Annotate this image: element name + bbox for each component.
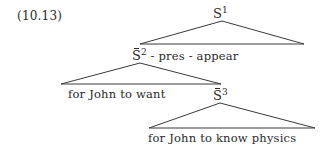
node-s1-index: 1 bbox=[222, 5, 228, 15]
terminal-for-john-to-know-physics: for John to know physics bbox=[148, 131, 296, 145]
node-s2-suffix: - pres - appear bbox=[147, 49, 239, 63]
node-s3-index: 3 bbox=[222, 87, 228, 97]
terminal-for-john-to-want: for John to want bbox=[68, 87, 165, 101]
node-s3: S3 bbox=[213, 89, 228, 103]
node-s3-category: S bbox=[213, 89, 222, 103]
node-s2: S2 - pres - appear bbox=[132, 49, 239, 63]
node-s1-category: S bbox=[213, 7, 222, 21]
node-s2-category: S bbox=[132, 49, 141, 63]
node-s1: S1 bbox=[213, 7, 228, 21]
syntax-tree-figure: (10.13) S1 S2 - pres - appear for John t… bbox=[0, 0, 336, 152]
s2-triangle bbox=[61, 63, 221, 84]
s1-triangle bbox=[140, 21, 304, 44]
example-number: (10.13) bbox=[17, 9, 62, 23]
s3-triangle bbox=[149, 103, 315, 128]
